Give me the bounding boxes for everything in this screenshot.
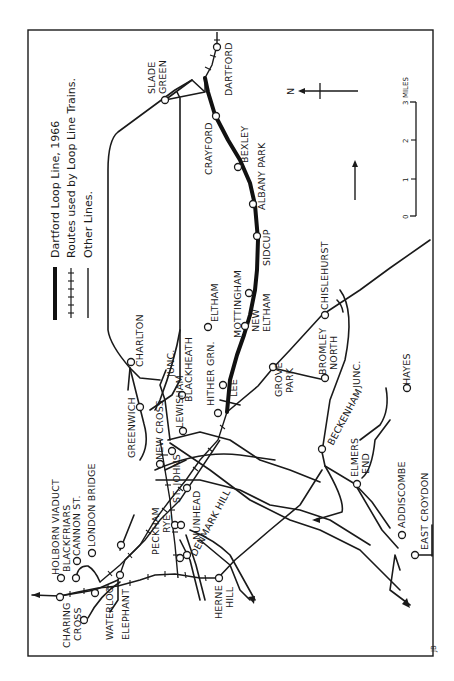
station-herne-hill[interactable] [216, 575, 223, 582]
label-new-eltham-1: NEW [250, 308, 261, 332]
station-st-johns[interactable] [169, 448, 176, 455]
station-cannon-st[interactable] [74, 558, 81, 565]
scale-tick-1: 1 [402, 178, 410, 182]
label-slade-green-2: GREEN [157, 60, 168, 94]
station-greenwich[interactable] [137, 404, 144, 411]
scale-tick-2: 2 [402, 139, 410, 143]
station-peckham-rye-2[interactable] [178, 522, 185, 529]
label-st-johns: ST. JOHNS [171, 454, 182, 503]
label-park: PARK [284, 367, 295, 393]
label-cannon-st: CANNON ST. [71, 495, 82, 556]
label-grove: GROVE [273, 362, 284, 397]
label-slade-green-1: SLADE [146, 62, 157, 94]
north-arrow: N [285, 83, 358, 99]
scale-tick-3: 3 [402, 101, 410, 105]
label-chislehurst: CHISLEHURST [319, 241, 330, 310]
label-cross: CROSS [72, 607, 83, 641]
label-crayford: CRAYFORD [203, 122, 214, 175]
station-new-eltham[interactable] [246, 290, 253, 297]
station-eltham[interactable] [205, 324, 212, 331]
label-lewisham-junc: JUNC. [165, 349, 176, 378]
station-unnamed-branch[interactable] [118, 542, 125, 549]
scale-bar: 0 1 2 3 MILES [402, 77, 416, 219]
legend: Dartford Loop Line, 1966 Routes used by … [49, 78, 95, 320]
station-sidcup[interactable] [254, 233, 261, 240]
label-hill: HILL [224, 586, 235, 608]
label-elephant: ELEPHANT [120, 589, 131, 640]
credit-initials: JB [430, 645, 438, 653]
label-albany-park: ALBANY PARK [256, 142, 267, 210]
station-dartford[interactable] [214, 44, 221, 51]
label-east-croydon: EAST CROYDON [419, 472, 430, 550]
station-chislehurst[interactable] [322, 312, 329, 319]
label-mottingham: MOTTINGHAM [232, 270, 243, 338]
label-bromley: BROMLEY [317, 328, 328, 375]
station-bexley[interactable] [235, 164, 242, 171]
label-rye: RYE [161, 515, 172, 533]
label-new-eltham-2: ELTHAM [261, 293, 272, 332]
label-hayes: HAYES [401, 353, 412, 385]
label-greenwich: GREENWICH [126, 397, 137, 458]
north-label: N [285, 88, 296, 95]
arrow-line [352, 160, 358, 200]
label-north: NORTH [328, 336, 339, 370]
legend-label-routes: Routes used by Loop Line Trains. [65, 78, 78, 258]
railway-map: Dartford Loop Line, 1966 Routes used by … [0, 0, 454, 681]
station-new-cross[interactable] [157, 461, 164, 468]
label-holborn-viaduct: HOLBORN VIADUCT [50, 479, 61, 575]
label-sidcup: SIDCUP [261, 229, 272, 266]
station-crayford[interactable] [213, 113, 220, 120]
station-charing-cross[interactable] [57, 594, 64, 601]
station-addiscombe[interactable] [399, 532, 406, 539]
label-hither-green: HITHER GRN. [205, 341, 216, 406]
label-beckenham-junc: JUNC. [351, 360, 362, 389]
scale-tick-0: 0 [402, 215, 410, 219]
station-elmers-end[interactable] [354, 481, 361, 488]
station-slade-green[interactable] [162, 97, 169, 104]
station-elephant[interactable] [117, 572, 124, 579]
label-waterloo: WATERLOO [104, 585, 115, 640]
label-london-bridge: LONDON BRIDGE [86, 463, 97, 547]
station-blackfriars[interactable] [73, 575, 80, 582]
label-lewisham: LEWISHAM [174, 375, 185, 428]
label-bexley: BEXLEY [239, 126, 250, 163]
label-end: END [360, 453, 371, 474]
label-lee: LEE [228, 379, 239, 397]
scale-unit: MILES [402, 77, 410, 98]
label-charlton: CHARLTON [134, 314, 145, 367]
station-london-bridge[interactable] [89, 550, 96, 557]
label-charing: CHARING [61, 602, 72, 648]
label-peckham: PECKHAM [150, 507, 161, 555]
label-herne: HERNE [213, 585, 224, 619]
station-denmark-hill-2[interactable] [177, 555, 184, 562]
legend-label-loop-line: Dartford Loop Line, 1966 [49, 121, 62, 258]
station-lee[interactable] [220, 382, 227, 389]
label-new-cross: NEW CROSS [154, 400, 165, 460]
label-addiscombe: ADDISCOMBE [396, 461, 407, 528]
station-waterloo[interactable] [92, 590, 99, 597]
station-east-croydon[interactable] [412, 552, 419, 559]
label-elmers: ELMERS [349, 438, 360, 477]
station-hither-green[interactable] [215, 410, 222, 417]
legend-label-other: Other Lines. [82, 191, 95, 258]
station-beckenham-junc[interactable] [319, 446, 326, 453]
label-eltham: ELTHAM [209, 283, 220, 322]
station-nunhead[interactable] [184, 485, 191, 492]
label-dartford: DARTFORD [223, 42, 234, 96]
label-blackfriars: BLACKFRIARS [61, 505, 72, 572]
